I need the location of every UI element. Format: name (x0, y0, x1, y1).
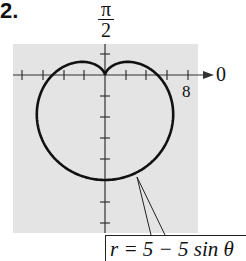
pi-over-2-label: π 2 (96, 0, 116, 39)
axis-arrow-icon (203, 71, 214, 79)
equation-label: r = 5 − 5 sin θ (105, 235, 246, 261)
polar-plot (0, 0, 246, 261)
radius-8-label: 8 (182, 82, 191, 102)
zero-angle-label: 0 (216, 63, 226, 86)
